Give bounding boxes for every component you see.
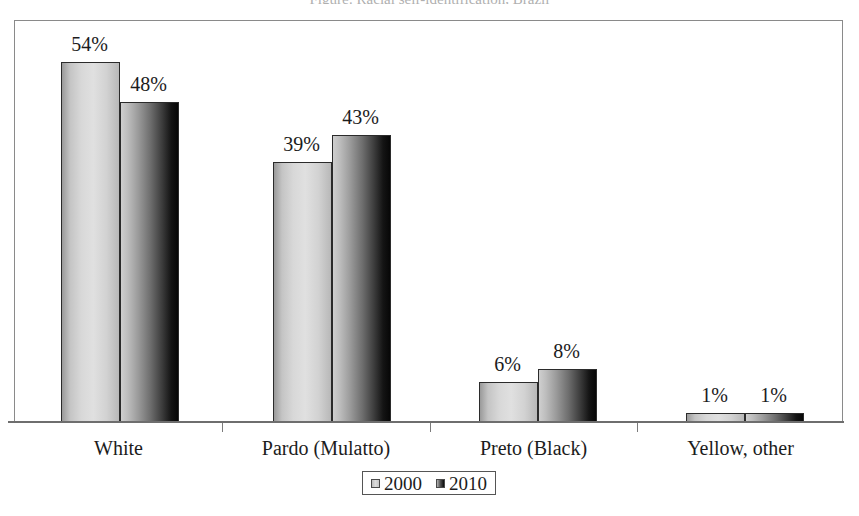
value-label-yellow-2000: 1% — [685, 384, 744, 407]
axis-tick-2 — [430, 423, 431, 432]
chart-title: Figure: Racial self-identification, Braz… — [0, 0, 859, 4]
legend-swatch-2010-icon — [436, 479, 445, 488]
value-label-white-2010: 48% — [119, 73, 178, 96]
value-label-preto-2000: 6% — [478, 353, 537, 376]
legend-entry-2010[interactable]: 2010 — [436, 474, 487, 493]
category-label-yellow: Yellow, other — [637, 437, 844, 460]
legend-label-2010: 2010 — [449, 474, 487, 493]
legend-swatch-2000-icon — [371, 479, 380, 488]
x-axis-baseline — [8, 421, 844, 423]
bar-preto-2010 — [538, 369, 597, 423]
category-label-white: White — [15, 437, 222, 460]
bar-white-2010 — [120, 102, 179, 423]
value-label-yellow-2010: 1% — [744, 384, 803, 407]
bar-white-2000 — [61, 62, 120, 423]
value-label-white-2000: 54% — [60, 33, 119, 56]
category-label-preto: Preto (Black) — [430, 437, 637, 460]
bar-pardo-2010 — [332, 135, 391, 423]
value-label-pardo-2000: 39% — [272, 133, 331, 156]
axis-tick-1 — [222, 423, 223, 432]
value-label-preto-2010: 8% — [537, 340, 596, 363]
legend-entry-2000[interactable]: 2000 — [371, 474, 422, 493]
legend-label-2000: 2000 — [384, 474, 422, 493]
chart-legend: 2000 2010 — [362, 471, 496, 495]
category-label-pardo: Pardo (Mulatto) — [222, 437, 430, 460]
value-label-pardo-2010: 43% — [331, 106, 390, 129]
axis-tick-3 — [637, 423, 638, 432]
bar-preto-2000 — [479, 382, 538, 423]
bar-pardo-2000 — [273, 162, 332, 423]
